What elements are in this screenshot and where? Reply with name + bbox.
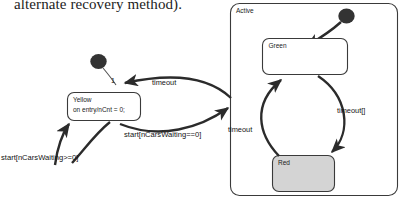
statechart-diagram: Active Green Red timeout[] timeout Yello… [0, 0, 403, 199]
state-yellow-entry-action: on entry/nCnt = 0; [73, 106, 125, 114]
transition-label-red-to-green: timeout [228, 125, 252, 134]
transition-label-initial-to-yellow: 1 [111, 77, 115, 84]
initial-state-inner[interactable] [338, 9, 354, 24]
state-yellow[interactable]: Yellow on entry/nCnt = 0; [68, 93, 141, 121]
state-green-label: Green [269, 42, 287, 49]
transition-label-active-to-yellow: timeout [152, 78, 176, 87]
statechart-figure: alternate recovery method). Active Green [0, 0, 403, 199]
transition-active-to-yellow[interactable] [125, 78, 231, 98]
initial-state-outer[interactable] [90, 54, 106, 69]
state-yellow-label: Yellow [73, 96, 92, 103]
transition-label-yellow-selfloop: start[nCarsWaiting>=0] [1, 153, 78, 162]
initial-state-outer-dot [90, 54, 106, 69]
composite-state-active-label: Active [236, 7, 254, 14]
transition-label-yellow-to-active: start[nCarsWaiting==0] [124, 130, 201, 139]
state-green[interactable]: Green [263, 39, 348, 75]
state-red[interactable]: Red [273, 156, 335, 192]
state-red-label: Red [278, 159, 290, 166]
initial-state-inner-dot [338, 9, 354, 24]
transition-label-green-to-red: timeout[] [337, 106, 365, 115]
